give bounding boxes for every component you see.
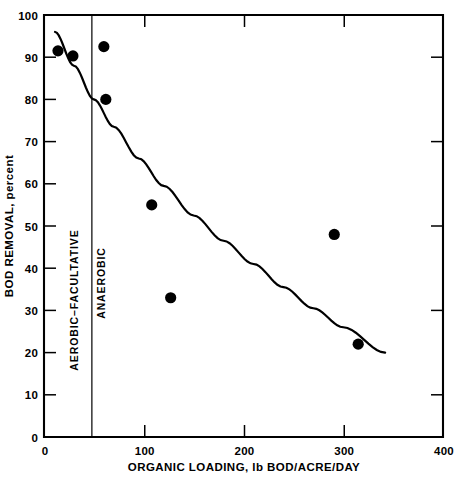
y-axis-title: BOD REMOVAL, percent [3,155,15,297]
data-point [98,41,109,52]
region-label-aerobic-facultative: AEROBIC–FACULTATIVE [68,229,80,370]
x-tick-label: 100 [135,445,155,457]
y-tick-label: 20 [25,347,38,359]
data-point [329,229,340,240]
region-label-anaerobic: ANAEROBIC [95,247,107,319]
data-point [67,50,78,61]
data-point [146,199,157,210]
x-tick-label: 300 [334,445,354,457]
y-tick-label: 0 [31,432,38,444]
data-point [100,94,111,105]
y-tick-label: 50 [25,221,38,233]
data-point [165,292,176,303]
x-axis-title: ORGANIC LOADING, lb BOD/ACRE/DAY [128,461,360,473]
y-tick-label: 100 [18,10,38,22]
y-tick-label: 70 [25,136,38,148]
x-tick-label: 200 [235,445,255,457]
y-tick-label: 60 [25,178,38,190]
y-tick-label: 80 [25,94,38,106]
chart-figure: 100 90 80 70 60 50 40 30 20 10 0 0 100 2… [0,0,475,477]
y-tick-label: 90 [25,52,38,64]
data-point [353,339,364,350]
y-tick-label: 10 [25,389,38,401]
y-tick-label: 40 [25,263,38,275]
data-point [52,45,63,56]
y-tick-label: 30 [25,305,38,317]
x-tick-label: 0 [42,445,49,457]
x-tick-label: 400 [434,445,454,457]
scatter-plot: 100 90 80 70 60 50 40 30 20 10 0 0 100 2… [0,0,475,477]
